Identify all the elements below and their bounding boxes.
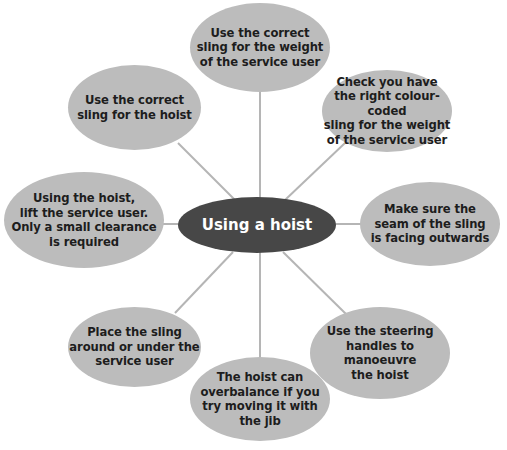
node-lower-left-label: Place the sling around or under the serv… [69, 325, 199, 369]
line: Make sure the [371, 202, 490, 217]
node-top: Use the correct sling for the weight of … [190, 3, 330, 92]
node-bottom: The hoist can overbalance if you try mov… [190, 357, 330, 441]
link-upper-left [178, 143, 235, 200]
line: The hoist can [200, 370, 319, 385]
line: handles to manoeuvre [310, 339, 450, 368]
line: lift the service user. [11, 206, 156, 221]
link-lower-left [175, 252, 233, 313]
line: of the service user [322, 133, 452, 148]
line: sling for the hoist [77, 108, 192, 123]
node-lower-right: Use the steering handles to manoeuvre th… [310, 307, 450, 399]
line: Use the correct [77, 93, 192, 108]
line: the hoist [310, 368, 450, 383]
line: seam of the sling [371, 217, 490, 232]
node-lower-right-label: Use the steering handles to manoeuvre th… [310, 324, 450, 382]
line: sling for the weight [322, 118, 452, 133]
node-right-label: Make sure the seam of the sling is facin… [371, 202, 490, 246]
node-top-label: Use the correct sling for the weight of … [197, 26, 324, 70]
center-node-label: Using a hoist [202, 216, 312, 234]
node-left: Using the hoist, lift the service user. … [4, 172, 164, 268]
line: the right colour-coded [322, 89, 452, 118]
line: Only a small clearance [11, 220, 156, 235]
node-upper-right-label: Check you have the right colour-coded sl… [322, 75, 452, 148]
line: try moving it with [200, 399, 319, 414]
link-upper-right [285, 143, 345, 200]
line: is facing outwards [371, 231, 490, 246]
node-lower-left: Place the sling around or under the serv… [68, 307, 201, 387]
line: the jib [200, 414, 319, 429]
link-lower-right [283, 252, 347, 315]
node-upper-left-label: Use the correct sling for the hoist [77, 93, 192, 122]
line: of the service user [197, 55, 324, 70]
node-bottom-label: The hoist can overbalance if you try mov… [200, 370, 319, 428]
line: is required [11, 235, 156, 250]
line: Use the steering [310, 324, 450, 339]
line: Check you have [322, 75, 452, 90]
line: Use the correct [197, 26, 324, 41]
line: service user [69, 354, 199, 369]
line: Place the sling [69, 325, 199, 340]
node-upper-left: Use the correct sling for the hoist [68, 65, 201, 150]
node-upper-right: Check you have the right colour-coded sl… [322, 70, 452, 152]
node-right: Make sure the seam of the sling is facin… [360, 182, 500, 266]
line: Using the hoist, [11, 191, 156, 206]
center-node: Using a hoist [178, 197, 336, 253]
line: sling for the weight [197, 40, 324, 55]
node-left-label: Using the hoist, lift the service user. … [11, 191, 156, 249]
line: around or under the [69, 340, 199, 355]
line: overbalance if you [200, 385, 319, 400]
